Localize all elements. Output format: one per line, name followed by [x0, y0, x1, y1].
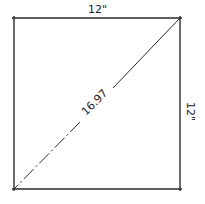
square-diagram: 12" 12" 16.97	[0, 0, 205, 204]
diagonal-upper	[113, 18, 180, 88]
top-dimension-label: 12"	[88, 3, 107, 16]
diagonal-lower	[14, 122, 80, 189]
right-dimension-label: 12"	[184, 102, 197, 121]
diagonal-length-label: 16.97	[79, 87, 110, 118]
